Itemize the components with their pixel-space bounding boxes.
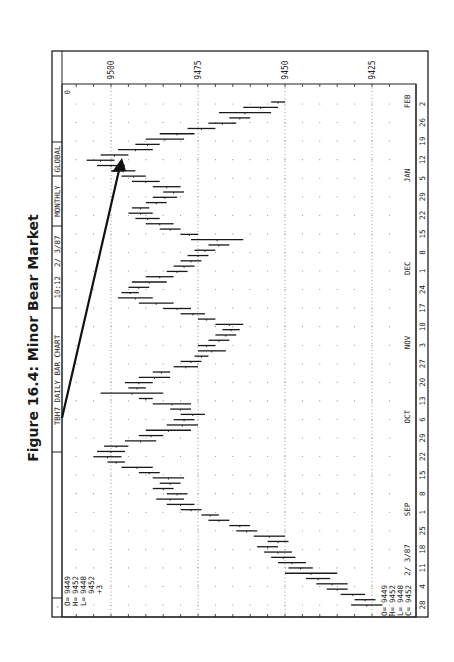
week-tick-label: 1 — [418, 510, 427, 515]
week-tick-label: 8 — [418, 250, 427, 255]
month-label: FEB — [403, 94, 412, 108]
week-tick-label: 1 — [418, 269, 427, 274]
week-tick-label: 26 — [418, 118, 427, 128]
daily-bar-chart: Figure 16.4: Minor Bear Market GLOBAL MO… — [0, 0, 454, 662]
week-tick-label: 29 — [418, 192, 427, 201]
outer-frame — [52, 51, 428, 617]
week-tick-label: 3 — [418, 343, 427, 348]
ohlc-bottom-block: O= 9449 H= 9452 L= 9448 C= 9452 — [380, 584, 413, 616]
week-tick-label: 22 — [418, 211, 427, 220]
price-tick-label: 9475 — [194, 60, 203, 79]
week-tick-label: 28 — [418, 600, 427, 610]
month-label: SEP — [403, 502, 412, 516]
ohlc-top-l-label: L= — [79, 596, 88, 606]
week-tick-label: 25 — [418, 526, 427, 535]
week-tick-label: 4 — [418, 584, 427, 589]
week-tick-label: 24 — [418, 285, 427, 295]
header-dot: · — [54, 605, 62, 609]
week-tick-label: 20 — [418, 377, 427, 387]
date-stamp: 2/ 3/87 — [403, 544, 412, 576]
ohlc-bottom-c-value: 9452 — [404, 585, 413, 603]
week-tick-label: 8 — [418, 491, 427, 496]
week-tick-label: 27 — [418, 359, 427, 368]
figure-title: Figure 16.4: Minor Bear Market — [25, 214, 41, 462]
ohlc-top-block: O= 9449 H= 9452 L= 9448 9452 +3 — [63, 575, 104, 606]
header-time: 10:12 2/ 3/87 — [53, 235, 62, 298]
week-tick-label: 22 — [418, 452, 427, 461]
header-scope: GLOBAL — [53, 145, 62, 173]
price-bars — [87, 102, 383, 607]
corner-label: 0 — [63, 90, 72, 95]
week-tick-label: 5 — [418, 176, 427, 181]
price-tick-label: 9450 — [281, 60, 290, 79]
week-tick-label: 2 — [418, 102, 427, 107]
week-tick-label: 12 — [418, 155, 427, 164]
month-label: DEC — [403, 261, 412, 275]
week-tick-label: 15 — [418, 229, 427, 238]
week-tick-label: 13 — [418, 396, 427, 405]
ohlc-bottom-c-label: C= — [404, 606, 413, 616]
week-tick-label: 15 — [418, 471, 427, 480]
month-label: NOV — [403, 335, 412, 349]
figure-page: Figure 16.4: Minor Bear Market GLOBAL MO… — [0, 0, 454, 662]
header-symbol: TBH7 DAILY BAR CHART — [53, 334, 62, 425]
ohlc-top-change: +3 — [95, 585, 104, 594]
month-label: OCT — [403, 409, 412, 423]
price-tick-label: 9500 — [107, 60, 116, 79]
week-tick-label: 11 — [418, 563, 427, 572]
week-tick-label: 6 — [418, 417, 427, 422]
price-tick-label: 9425 — [368, 60, 377, 79]
week-tick-label: 17 — [418, 304, 427, 313]
week-tick-label: 18 — [418, 544, 427, 554]
week-tick-label: 19 — [418, 137, 427, 146]
month-label: JAN — [403, 169, 412, 183]
price-axis: 9500947594509425 — [107, 60, 377, 79]
date-axis: 2841118251815222961320273101724181522295… — [403, 94, 427, 610]
plot-area — [62, 84, 416, 617]
week-tick-label: 10 — [418, 322, 427, 332]
header-period: MONTHLY — [53, 185, 62, 217]
week-tick-label: 29 — [418, 433, 427, 442]
